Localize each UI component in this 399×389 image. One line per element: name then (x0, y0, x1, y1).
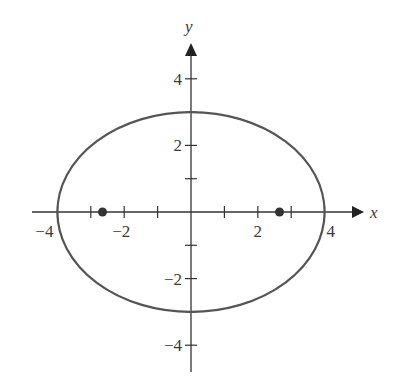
y-tick-label: −4 (164, 336, 183, 355)
x-tick-label: −4 (35, 222, 54, 241)
x-axis-arrow-icon (352, 206, 364, 218)
ellipse-plot: −4−22442−2−4 x y (0, 0, 399, 389)
x-tick-label: 2 (254, 222, 263, 241)
y-tick-label: 4 (174, 70, 183, 89)
x-tick-label: −2 (112, 222, 130, 241)
x-tick-label: 4 (327, 222, 336, 241)
focus-point (98, 208, 107, 217)
y-axis-arrow-icon (185, 43, 197, 56)
x-axis-label: x (369, 203, 378, 222)
y-tick-label: −2 (164, 270, 182, 289)
y-tick-label: 2 (174, 136, 183, 155)
focus-point (275, 208, 284, 217)
y-axis-label: y (183, 17, 193, 36)
axes (32, 43, 364, 372)
